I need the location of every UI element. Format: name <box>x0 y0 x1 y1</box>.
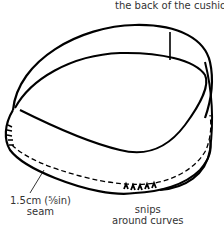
seam-word-text: seam <box>10 206 71 217</box>
seam-leader-line <box>30 170 44 193</box>
gusset-inner-top-edge <box>15 53 206 152</box>
back-of-cushion-text: the back of the cushion <box>115 0 224 11</box>
gusset-left-side <box>6 110 135 194</box>
around-curves-text: around curves <box>112 215 184 226</box>
snips-word-text: snips <box>112 204 184 215</box>
gusset-outer-top-edge <box>13 25 212 118</box>
seam-allowance-label: 1.5cm (⅝in) seam <box>10 195 71 217</box>
left-edge-snips <box>7 125 14 145</box>
seam-measurement-text: 1.5cm (⅝in) <box>10 195 71 206</box>
back-of-cushion-label: the back of the cushion <box>115 0 224 11</box>
snips-label: snips around curves <box>112 204 184 226</box>
